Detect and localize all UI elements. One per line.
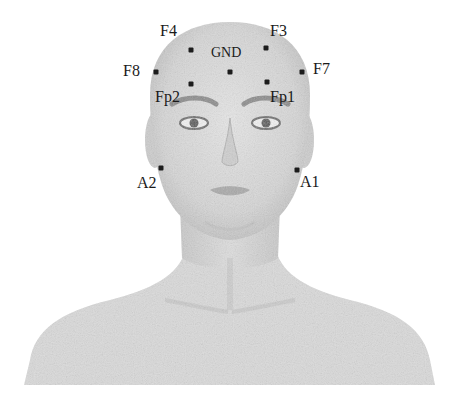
electrode-a1-marker <box>295 168 300 173</box>
electrode-fp2-label: Fp2 <box>155 89 180 105</box>
electrode-a2-label: A2 <box>137 175 157 191</box>
electrode-f4-marker <box>189 48 194 53</box>
electrode-f8-marker <box>154 70 159 75</box>
electrode-fp2-marker <box>189 82 194 87</box>
electrode-a1-label: A1 <box>300 174 320 190</box>
electrode-f4-label: F4 <box>160 23 177 39</box>
electrode-gnd-marker <box>228 70 233 75</box>
electrode-f7-label: F7 <box>313 61 330 77</box>
electrode-f3-label: F3 <box>270 23 287 39</box>
electrode-a2-marker <box>159 166 164 171</box>
electrode-f3-marker <box>264 46 269 51</box>
electrode-f8-label: F8 <box>123 63 140 79</box>
electrode-fp1-label: Fp1 <box>270 89 295 105</box>
electrode-f7-marker <box>300 70 305 75</box>
head-illustration <box>0 0 459 402</box>
eeg-electrode-diagram: F4 F3 F8 GND F7 Fp2 Fp1 A2 A1 <box>0 0 459 402</box>
electrode-fp1-marker <box>265 80 270 85</box>
electrode-gnd-label: GND <box>211 46 241 60</box>
